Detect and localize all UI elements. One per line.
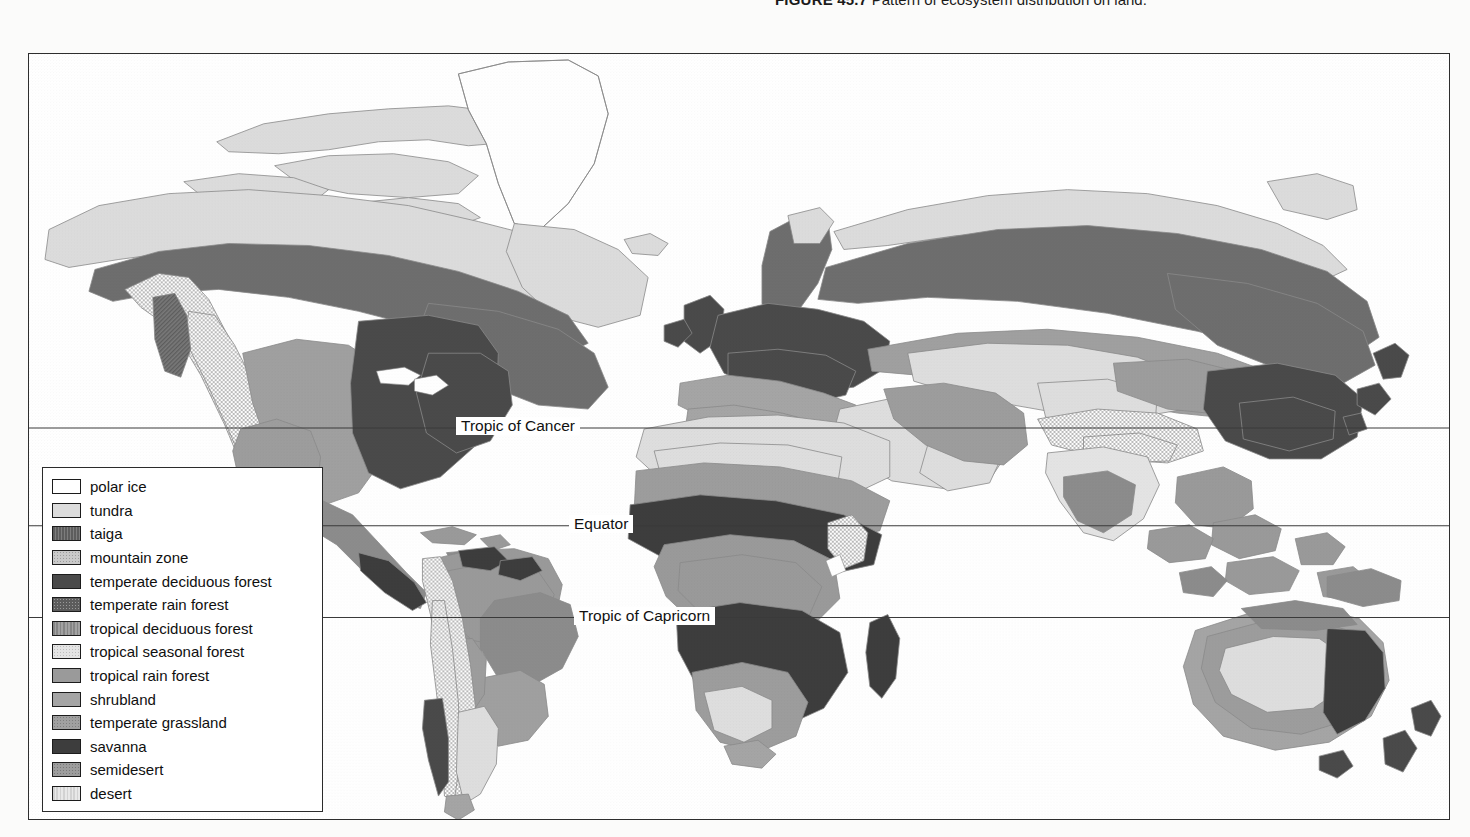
legend-label-tropical-seasonal-forest: tropical seasonal forest: [90, 644, 244, 659]
legend-swatch-taiga: [52, 526, 81, 541]
legend-swatch-tropical-rain-forest: [52, 668, 81, 683]
figure-caption: FIGURE 45.7 Pattern of ecosystem distrib…: [775, 0, 1465, 13]
lat-label-tropic-of-cancer: Tropic of Cancer: [456, 417, 580, 435]
legend-label-savanna: savanna: [90, 739, 147, 754]
legend-swatch-mountain-zone: [52, 550, 81, 565]
legend-item: temperate deciduous forest: [52, 569, 322, 593]
legend-label-polar-ice: polar ice: [90, 479, 147, 494]
legend-item: desert: [52, 782, 322, 806]
figure-number: FIGURE 45.7: [775, 0, 867, 8]
legend-item: shrubland: [52, 687, 322, 711]
legend-swatch-temperate-deciduous-forest: [52, 574, 81, 589]
legend-swatch-temperate-rain-forest: [52, 597, 81, 612]
legend-swatch-tropical-seasonal-forest: [52, 644, 81, 659]
legend-swatch-shrubland: [52, 692, 81, 707]
lat-label-equator: Equator: [569, 515, 633, 533]
lat-label-tropic-of-capricorn: Tropic of Capricorn: [574, 607, 715, 625]
legend-item: tropical rain forest: [52, 664, 322, 688]
legend-swatch-temperate-grassland: [52, 715, 81, 730]
legend-item: temperate grassland: [52, 711, 322, 735]
figure-page: FIGURE 45.7 Pattern of ecosystem distrib…: [0, 0, 1470, 837]
legend-item: polar ice: [52, 475, 322, 499]
legend-item: tundra: [52, 499, 322, 523]
legend-label-temperate-grassland: temperate grassland: [90, 715, 227, 730]
legend-swatch-semidesert: [52, 762, 81, 777]
legend-item: tropical seasonal forest: [52, 640, 322, 664]
legend-label-tundra: tundra: [90, 503, 133, 518]
legend-swatch-desert: [52, 786, 81, 801]
legend-item: savanna: [52, 735, 322, 759]
legend-item: mountain zone: [52, 546, 322, 570]
legend-swatch-tropical-deciduous-forest: [52, 621, 81, 636]
legend-label-tropical-rain-forest: tropical rain forest: [90, 668, 209, 683]
legend-label-temperate-deciduous-forest: temperate deciduous forest: [90, 574, 272, 589]
legend-item: temperate rain forest: [52, 593, 322, 617]
legend-label-shrubland: shrubland: [90, 692, 156, 707]
legend-label-desert: desert: [90, 786, 132, 801]
legend-item: semidesert: [52, 758, 322, 782]
legend-label-mountain-zone: mountain zone: [90, 550, 188, 565]
legend-swatch-savanna: [52, 739, 81, 754]
legend-item: taiga: [52, 522, 322, 546]
legend-swatch-tundra: [52, 503, 81, 518]
legend-label-tropical-deciduous-forest: tropical deciduous forest: [90, 621, 253, 636]
legend-label-temperate-rain-forest: temperate rain forest: [90, 597, 228, 612]
legend-swatch-polar-ice: [52, 479, 81, 494]
legend-item: tropical deciduous forest: [52, 617, 322, 641]
map-legend: polar ice tundra taiga mountain zone tem…: [42, 467, 323, 812]
legend-label-taiga: taiga: [90, 526, 123, 541]
figure-caption-text: Pattern of ecosystem distribution on lan…: [872, 0, 1147, 8]
legend-label-semidesert: semidesert: [90, 762, 163, 777]
